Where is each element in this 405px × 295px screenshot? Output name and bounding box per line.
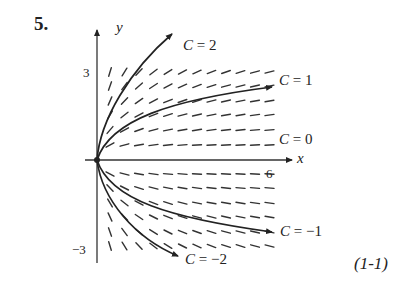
- slope-segment: [193, 202, 202, 204]
- y-tick-neg3: −3: [72, 243, 86, 256]
- slope-segment: [178, 84, 186, 88]
- slope-field-segments: [106, 68, 274, 251]
- slope-segment: [135, 173, 144, 174]
- slope-segment: [207, 145, 216, 146]
- slope-segment: [222, 231, 231, 233]
- slope-segment: [207, 188, 216, 189]
- slope-segment: [178, 174, 187, 175]
- slope-segment: [207, 231, 216, 234]
- slope-segment: [251, 130, 260, 131]
- slope-segment: [109, 228, 112, 236]
- slope-segment: [164, 230, 172, 234]
- slope-segment: [135, 187, 144, 190]
- slope-segment: [121, 186, 129, 190]
- slope-segment: [135, 98, 142, 103]
- slope-segment: [164, 174, 173, 175]
- slope-segment: [193, 114, 202, 116]
- slope-segment: [107, 127, 113, 134]
- slope-segment: [207, 114, 216, 116]
- slope-segment: [236, 216, 245, 218]
- slope-segment: [251, 100, 260, 102]
- slope-segment: [178, 230, 186, 233]
- slope-segment: [207, 244, 215, 247]
- slope-segment: [207, 216, 216, 218]
- slope-segment: [150, 215, 158, 219]
- slope-segment: [222, 100, 231, 102]
- slope-segment: [107, 185, 113, 192]
- slope-segment: [251, 231, 260, 233]
- slope-segment: [236, 100, 245, 102]
- slope-segment: [106, 143, 114, 147]
- slope-segment: [149, 201, 157, 204]
- slope-segment: [121, 200, 128, 206]
- slope-segment: [251, 245, 260, 247]
- slope-segment: [193, 145, 202, 146]
- slope-segment: [150, 84, 158, 89]
- slope-segment: [149, 129, 158, 131]
- curve-label-cneg1: C = −1: [280, 224, 322, 239]
- curve-label-cneg2: C = −2: [185, 252, 227, 267]
- slope-segment: [207, 174, 216, 175]
- slope-segment: [265, 114, 274, 115]
- slope-segment: [236, 85, 245, 87]
- slope-segment: [236, 188, 245, 189]
- slope-segment: [222, 114, 231, 116]
- slope-segment: [150, 230, 158, 235]
- slope-segment: [207, 70, 215, 73]
- slope-segment: [178, 129, 187, 131]
- x-axis-label: x: [297, 151, 304, 166]
- slope-segment: [193, 187, 202, 188]
- slope-segment: [251, 188, 260, 189]
- slope-segment: [149, 187, 158, 189]
- slope-segment: [251, 216, 260, 218]
- slope-segment: [207, 202, 216, 204]
- equation-reference: (1-1): [354, 255, 388, 272]
- slope-segment: [265, 71, 274, 73]
- curve-c-neg1: [97, 160, 272, 232]
- slope-segment: [193, 174, 202, 175]
- slope-segment: [179, 70, 187, 74]
- slope-segment: [120, 144, 129, 146]
- slope-segment: [251, 85, 260, 87]
- slope-segment: [236, 202, 245, 203]
- slope-segment: [207, 85, 216, 88]
- slope-segment: [251, 114, 260, 115]
- slope-segment: [222, 202, 231, 203]
- slope-segment: [135, 129, 143, 132]
- slope-segment: [164, 99, 172, 102]
- slope-segment: [135, 215, 142, 220]
- curve-label-c0: C = 0: [279, 132, 312, 147]
- slope-segment: [222, 216, 231, 218]
- slope-segment: [236, 245, 245, 248]
- slope-segment: [193, 231, 201, 234]
- slope-segment: [122, 228, 127, 235]
- slope-segment: [150, 99, 158, 103]
- curve-c-1: [97, 87, 272, 160]
- slope-segment: [222, 188, 231, 189]
- slope-segment: [164, 84, 172, 88]
- slope-segment: [149, 173, 158, 174]
- y-axis-label: y: [116, 20, 123, 35]
- slope-segment: [109, 82, 112, 90]
- slope-segment: [164, 202, 173, 205]
- slope-segment: [207, 129, 216, 130]
- slope-segment: [120, 173, 129, 175]
- slope-segment: [136, 243, 142, 249]
- slope-segment: [122, 68, 127, 76]
- slope-segment: [222, 85, 231, 87]
- slope-segment: [193, 129, 202, 130]
- curve-label-c1: C = 1: [279, 73, 312, 88]
- slope-segment: [222, 71, 231, 74]
- origin-point: [94, 157, 100, 163]
- slope-segment: [236, 231, 245, 233]
- slope-segment: [108, 97, 112, 105]
- slope-segment: [265, 188, 274, 189]
- slope-segment: [265, 100, 274, 102]
- slope-segment: [164, 244, 172, 249]
- slope-segment: [164, 145, 173, 146]
- slope-segment: [207, 100, 216, 102]
- slope-segment: [265, 216, 274, 217]
- slope-segment: [135, 144, 144, 146]
- slope-segment: [251, 71, 260, 73]
- slope-segment: [179, 244, 187, 248]
